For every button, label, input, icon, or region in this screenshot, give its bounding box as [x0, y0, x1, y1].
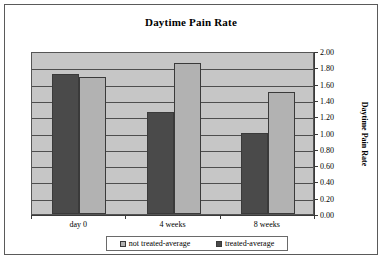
y-axis-tick: [314, 199, 318, 200]
y-axis-tick-label: 1.60: [320, 80, 334, 89]
y-axis-tick-label: 1.80: [320, 64, 334, 73]
legend-label: treated-average: [225, 239, 274, 248]
legend-item-not-treated-average: not treated-average: [120, 239, 191, 248]
y-axis-tick-label: 0.80: [320, 145, 334, 154]
bar: [147, 112, 174, 214]
legend-item-treated-average: treated-average: [216, 239, 274, 248]
x-axis-tick: [31, 216, 32, 219]
y-axis-tick-label: 0.40: [320, 178, 334, 187]
x-axis-tick: [125, 216, 126, 219]
y-axis-tick-label: 0.60: [320, 162, 334, 171]
legend-swatch-icon: [216, 241, 222, 247]
y-axis-tick: [314, 85, 318, 86]
bar: [79, 77, 106, 214]
y-axis-tick: [314, 52, 318, 53]
y-axis-tick-label: 0.00: [320, 211, 334, 220]
chart-frame: Daytime Pain Rate 0.000.200.400.600.801.…: [4, 4, 378, 255]
y-axis-tick: [314, 150, 318, 151]
y-axis-tick-label: 1.20: [320, 113, 334, 122]
y-axis-tick: [314, 166, 318, 167]
bar: [268, 92, 295, 214]
y-axis-title: Daytime Pain Rate: [357, 52, 371, 216]
bar: [174, 63, 201, 214]
y-axis-tick: [314, 134, 318, 135]
plot-area: [31, 52, 314, 215]
y-axis-tick-label: 1.40: [320, 96, 334, 105]
bar: [52, 74, 79, 214]
x-axis-tick-label: day 0: [69, 220, 87, 229]
y-axis-tick: [314, 182, 318, 183]
y-axis-tick: [314, 117, 318, 118]
legend-swatch-icon: [120, 241, 126, 247]
x-axis-line: [31, 215, 315, 216]
y-axis-tick-label: 1.00: [320, 129, 334, 138]
bars-layer: [32, 53, 313, 214]
y-axis-tick: [314, 68, 318, 69]
y-axis-tick-label: 2.00: [320, 48, 334, 57]
y-axis-tick: [314, 101, 318, 102]
y-axis-tick-label: 0.20: [320, 194, 334, 203]
x-axis-tick-label: 4 weeks: [160, 220, 186, 229]
chart-title: Daytime Pain Rate: [5, 16, 377, 28]
x-axis-tick-label: 8 weeks: [254, 220, 280, 229]
x-axis-tick: [314, 216, 315, 219]
bar: [241, 133, 268, 215]
legend-label: not treated-average: [129, 239, 191, 248]
chart-legend: not treated-average treated-average: [106, 236, 288, 251]
x-axis-tick: [220, 216, 221, 219]
